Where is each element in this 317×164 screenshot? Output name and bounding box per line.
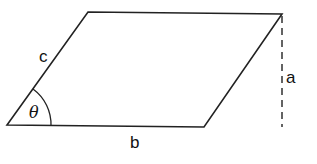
label-theta: θ [29,103,39,122]
label-c: c [39,47,48,66]
label-a: a [286,68,296,87]
label-b: b [130,133,139,152]
parallelogram-diagram: c θ b a [0,0,317,164]
